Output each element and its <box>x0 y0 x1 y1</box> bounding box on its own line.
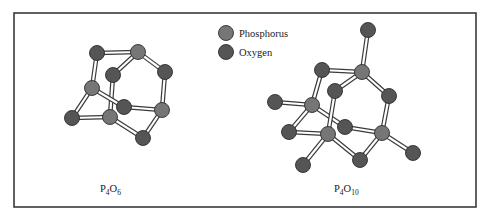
oxygen-swatch-icon <box>219 45 234 60</box>
legend-label-phosphorus: Phosphorus <box>239 28 288 39</box>
oxygen-atom-icon <box>65 111 80 126</box>
legend: Phosphorus Oxygen <box>219 26 289 60</box>
oxygen-atom-icon <box>136 131 151 146</box>
phosphorus-oxide-diagram: Phosphorus Oxygen P4O6 P4O10 <box>0 0 487 219</box>
oxygen-atom-icon <box>406 146 421 161</box>
phosphorus-atom-icon <box>375 126 390 141</box>
phosphorus-atom-icon <box>131 45 146 60</box>
p4o6-bonds <box>72 52 165 138</box>
figure-frame <box>14 13 476 207</box>
p4o6-atoms <box>65 45 173 146</box>
oxygen-atom-icon <box>338 120 353 135</box>
formula-o-subscript: 6 <box>117 188 121 197</box>
oxygen-atom-icon <box>158 65 173 80</box>
phosphorus-atom-icon <box>85 81 100 96</box>
phosphorus-atom-icon <box>155 103 170 118</box>
phosphorus-atom-icon <box>321 127 336 142</box>
phosphorus-atom-icon <box>355 65 370 80</box>
formula-label-p4o10: P4O10 <box>334 183 359 197</box>
oxygen-atom-icon <box>361 23 376 38</box>
legend-item-oxygen: Oxygen <box>219 45 273 60</box>
oxygen-atom-icon <box>353 153 368 168</box>
oxygen-atom-icon <box>282 125 297 140</box>
oxygen-atom-icon <box>106 68 121 83</box>
phosphorus-atom-icon <box>103 110 118 125</box>
oxygen-atom-icon <box>90 46 105 61</box>
oxygen-atom-icon <box>315 63 330 78</box>
oxygen-atom-icon <box>382 89 397 104</box>
phosphorus-swatch-icon <box>219 26 234 41</box>
molecule-p4o6: P4O6 <box>65 45 173 197</box>
formula-o-subscript: 10 <box>351 188 359 197</box>
formula-label-p4o6: P4O6 <box>100 183 121 197</box>
phosphorus-atom-icon <box>305 98 320 113</box>
legend-item-phosphorus: Phosphorus <box>219 26 289 41</box>
molecule-p4o10: P4O10 <box>268 23 421 197</box>
oxygen-atom-icon <box>328 84 343 99</box>
legend-label-oxygen: Oxygen <box>239 47 273 58</box>
oxygen-atom-icon <box>296 158 311 173</box>
oxygen-atom-icon <box>117 100 132 115</box>
oxygen-atom-icon <box>268 95 283 110</box>
p4o10-atoms <box>268 23 421 173</box>
